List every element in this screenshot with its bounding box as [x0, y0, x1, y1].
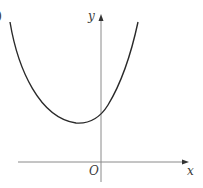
corner-mark: )	[0, 8, 2, 23]
origin-label: O	[89, 164, 99, 178]
y-axis-arrow-icon	[99, 14, 104, 21]
y-axis-label: y	[87, 9, 95, 23]
x-axis-label: x	[187, 164, 194, 178]
curve	[10, 22, 138, 123]
function-graph: ) y x O	[0, 0, 203, 188]
